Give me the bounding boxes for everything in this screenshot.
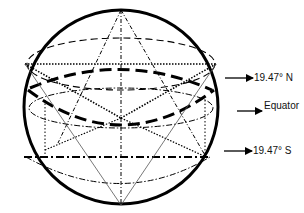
- south-latitude-label: 19.47° S: [253, 146, 291, 156]
- thin-line-left: [25, 64, 121, 205]
- sphere-diagram: [0, 0, 304, 213]
- dotted-edge-left-down: [25, 64, 121, 118]
- lower-dashdot-ellipse: [26, 157, 210, 184]
- dotted-edge-left-low: [45, 118, 121, 150]
- thin-line-right: [121, 64, 216, 205]
- dotted-edge-right-down: [121, 64, 216, 118]
- equator-label: Equator: [264, 101, 299, 111]
- north-latitude-label: 19.47° N: [254, 73, 293, 83]
